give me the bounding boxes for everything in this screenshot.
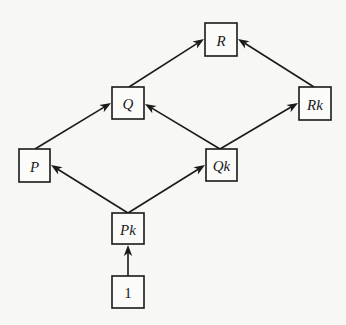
edge-line (58, 169, 128, 213)
arrowhead-icon (145, 104, 157, 113)
edges-layer (35, 39, 314, 276)
node-label: P (29, 159, 39, 175)
edge-pk-to-p (51, 165, 128, 213)
edge-line (245, 43, 314, 87)
nodes-layer: RQRkPQkPk1 (19, 23, 331, 308)
arrowhead-icon (238, 39, 250, 48)
node-label: R (215, 33, 225, 49)
arrowhead-icon (51, 165, 63, 174)
hasse-diagram: RQRkPQkPk1 (0, 0, 346, 325)
edge-q-to-r (129, 39, 204, 87)
node-label: 1 (124, 285, 132, 301)
arrowhead-icon (286, 103, 298, 112)
arrowhead-icon (193, 165, 205, 174)
edge-qk-to-rk (220, 103, 298, 149)
edge-line (152, 108, 220, 149)
node-p: P (19, 149, 50, 182)
arrowhead-icon (192, 39, 204, 48)
node-label: Rk (306, 97, 323, 113)
node-rk: Rk (299, 87, 331, 120)
node-q: Q (112, 87, 144, 119)
edge-rk-to-r (238, 39, 314, 87)
node-label: Qk (213, 158, 231, 174)
edge-qk-to-q (145, 104, 220, 149)
edge-line (129, 43, 197, 87)
node-label: Pk (119, 222, 136, 238)
edge-line (35, 107, 104, 149)
node-pk: Pk (112, 213, 144, 244)
node-r: R (205, 23, 237, 56)
edge-line (220, 107, 291, 149)
node-label: Q (123, 96, 134, 112)
edge-1-to-pk (124, 245, 132, 276)
node-qk: Qk (206, 149, 237, 181)
edge-line (128, 169, 198, 213)
arrowhead-icon (99, 103, 111, 112)
node-1: 1 (112, 276, 144, 308)
edge-p-to-q (35, 103, 111, 149)
edge-pk-to-qk (128, 165, 205, 213)
